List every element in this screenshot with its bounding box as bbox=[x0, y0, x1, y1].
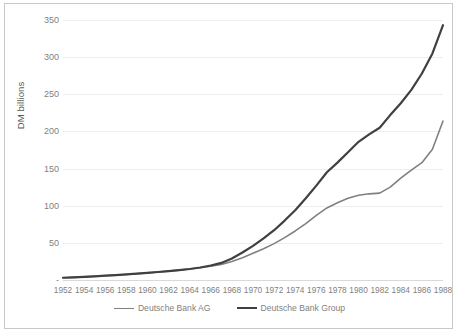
x-axis-tick-label: 1968 bbox=[223, 285, 241, 296]
x-axis-tick-label: 1966 bbox=[202, 285, 220, 296]
y-axis-tick-label: 100 bbox=[29, 201, 59, 210]
legend-label: Deutsche Bank Group bbox=[261, 303, 346, 313]
x-axis-tick-labels: 1952195419561958196019621964196619681970… bbox=[63, 285, 443, 299]
x-axis-tick-label: 1986 bbox=[413, 285, 431, 296]
x-axis-tick-label: 1956 bbox=[96, 285, 114, 296]
y-axis-tick-label: 150 bbox=[29, 164, 59, 173]
y-axis-tick-label: 300 bbox=[29, 53, 59, 62]
chart-legend: Deutsche Bank AGDeutsche Bank Group bbox=[5, 303, 454, 313]
x-axis-tick-label: 1954 bbox=[75, 285, 93, 296]
chart-container: DM billions -50100150200250300350 195219… bbox=[4, 3, 453, 329]
x-axis-tick-label: 1958 bbox=[117, 285, 135, 296]
x-axis-tick-label: 1982 bbox=[370, 285, 388, 296]
y-axis-tick-label: - bbox=[29, 276, 59, 285]
x-axis-tick-label: 1980 bbox=[349, 285, 367, 296]
legend-label: Deutsche Bank AG bbox=[138, 303, 211, 313]
series-line bbox=[63, 25, 443, 278]
x-axis-tick-label: 1988 bbox=[434, 285, 452, 296]
y-axis-tick-label: 350 bbox=[29, 16, 59, 25]
series-line bbox=[63, 121, 443, 278]
y-axis-tick-labels: -50100150200250300350 bbox=[29, 4, 59, 330]
x-axis-tick-label: 1970 bbox=[244, 285, 262, 296]
x-axis-tick-label: 1964 bbox=[180, 285, 198, 296]
y-axis-title: DM billions bbox=[15, 66, 26, 146]
plot-area bbox=[63, 20, 443, 280]
series-lines bbox=[63, 20, 443, 280]
x-axis-tick-label: 1972 bbox=[265, 285, 283, 296]
x-axis-baseline bbox=[63, 280, 443, 281]
x-axis-tick-label: 1960 bbox=[138, 285, 156, 296]
y-axis-tick-label: 50 bbox=[29, 238, 59, 247]
y-axis-tick-label: 200 bbox=[29, 127, 59, 136]
y-axis-tick-label: 250 bbox=[29, 90, 59, 99]
x-axis-tick-label: 1952 bbox=[54, 285, 72, 296]
x-axis-tick-label: 1962 bbox=[159, 285, 177, 296]
legend-item[interactable]: Deutsche Bank AG bbox=[114, 303, 211, 313]
legend-color-swatch bbox=[237, 307, 257, 309]
legend-item[interactable]: Deutsche Bank Group bbox=[237, 303, 346, 313]
x-axis-tick-label: 1984 bbox=[392, 285, 410, 296]
x-axis-tick-label: 1976 bbox=[307, 285, 325, 296]
legend-color-swatch bbox=[114, 308, 134, 309]
x-axis-tick-label: 1974 bbox=[286, 285, 304, 296]
x-axis-tick-label: 1978 bbox=[328, 285, 346, 296]
